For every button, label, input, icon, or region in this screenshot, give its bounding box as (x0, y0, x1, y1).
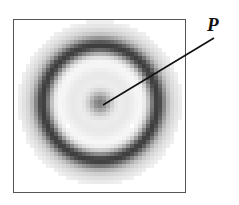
point-label-p: P (207, 14, 219, 36)
ring-pattern (0, 0, 239, 205)
